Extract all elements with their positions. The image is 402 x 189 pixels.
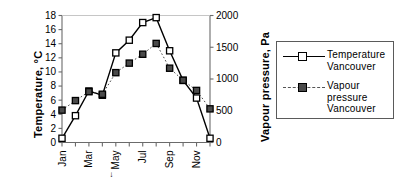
chart-legend: Temperature Vancouver Vapour pressure Va… — [276, 41, 394, 119]
legend-label-temperature-line1: Temperature — [327, 49, 385, 60]
data-point-marker — [113, 70, 119, 76]
left-axis-tick-label: 8 — [50, 80, 56, 91]
x-axis-tick-label: Jul — [137, 151, 148, 164]
legend-swatch-vapour-pressure — [283, 81, 325, 95]
x-axis-tick-label: Mar — [83, 150, 94, 168]
legend-swatch-temperature — [283, 50, 325, 64]
data-point-marker — [167, 48, 173, 54]
left-axis-tick-label: 18 — [45, 10, 57, 21]
data-point-marker — [59, 135, 65, 141]
data-point-marker — [72, 97, 78, 103]
left-axis-tick-label: 14 — [45, 38, 57, 49]
legend-label-vapour-line2: pressure — [327, 92, 368, 103]
data-point-marker — [140, 51, 146, 57]
series-line-0 — [62, 18, 210, 139]
x-axis-tick-label: Sep — [164, 150, 175, 168]
x-axis-tick-label: May — [110, 151, 121, 170]
data-point-marker — [180, 77, 186, 83]
x-axis-tick-label: Jan — [57, 151, 68, 167]
left-axis-tick-label: 2 — [50, 123, 56, 134]
x-axis-tick-label: Nov — [191, 151, 202, 169]
right-axis-tick-label: 1000 — [216, 73, 239, 84]
left-axis-tick-label: 0 — [50, 137, 56, 148]
data-point-marker — [193, 95, 199, 101]
left-axis-tick-label: 12 — [45, 52, 57, 63]
legend-label-temperature-line2: Vancouver — [327, 61, 376, 72]
filled-square-marker-icon — [298, 83, 307, 92]
data-point-marker — [153, 15, 159, 21]
may-annotation-arrow-icon: ↓ — [109, 170, 113, 179]
legend-entry-temperature: Temperature Vancouver — [283, 49, 385, 72]
right-axis-tick-label: 0 — [216, 137, 222, 148]
left-axis-tick-label: 10 — [45, 66, 57, 77]
left-axis-tick-label: 4 — [50, 109, 56, 120]
data-point-marker — [99, 91, 105, 97]
left-axis-tick-label: 16 — [45, 24, 57, 35]
data-point-marker — [167, 65, 173, 71]
data-point-marker — [193, 87, 199, 93]
data-point-marker — [113, 50, 119, 56]
legend-label-vapour-line1: Vapour — [327, 80, 360, 91]
legend-entry-vapour-pressure: Vapour pressure Vancouver — [283, 80, 376, 115]
left-axis-tick-label: 6 — [50, 95, 56, 106]
right-axis-tick-label: 1500 — [216, 42, 239, 53]
data-point-marker — [59, 107, 65, 113]
data-point-marker — [140, 19, 146, 25]
data-point-marker — [126, 37, 132, 43]
data-point-marker — [126, 60, 132, 66]
data-point-marker — [153, 40, 159, 46]
legend-label-vapour-line3: Vancouver — [327, 103, 376, 114]
open-square-marker-icon — [298, 52, 307, 61]
data-point-marker — [207, 106, 213, 112]
data-point-marker — [86, 89, 92, 95]
chart-figure: Temperature, °C Vapour pressure, Pa 0246… — [0, 0, 402, 189]
data-point-marker — [207, 135, 213, 141]
right-axis-tick-label: 500 — [216, 105, 233, 116]
data-point-marker — [72, 113, 78, 119]
legend-label-vapour-pressure: Vapour pressure Vancouver — [327, 80, 376, 115]
legend-label-temperature: Temperature Vancouver — [327, 49, 385, 72]
right-axis-tick-label: 2000 — [216, 10, 239, 21]
